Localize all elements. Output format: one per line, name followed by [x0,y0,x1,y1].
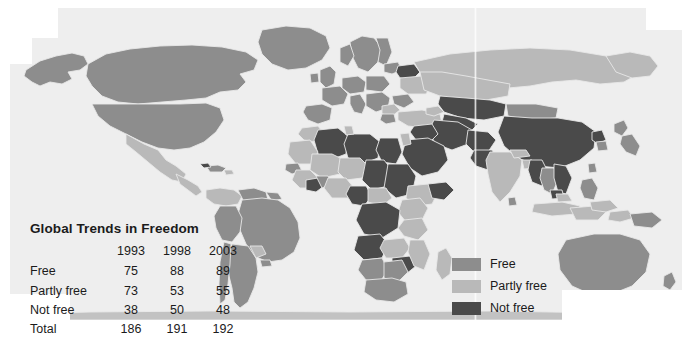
legend-swatch-partly-free [452,280,481,293]
column-header-1993: 1993 [108,242,154,262]
cell-free-1993: 75 [108,262,154,281]
column-header-2003: 2003 [200,242,246,262]
row-label-total: Total [30,320,108,339]
legend-item-free: Free [452,254,547,274]
table-row: Free 75 88 89 [30,262,246,281]
cell-free-1998: 88 [154,262,200,281]
column-header-1998: 1998 [154,242,200,262]
legend-label-not-free: Not free [490,301,534,315]
freedom-counts-table: 1993 1998 2003 Free 75 88 89 Partly free… [30,242,246,339]
cell-total-1993: 186 [108,320,154,339]
cell-not-free-1998: 50 [154,301,200,320]
row-label-not-free: Not free [30,301,108,320]
cell-partly-free-1998: 53 [154,282,200,301]
freedom-map-figure: .f { fill:#8d8d8d; stroke:#e8e8e8; strok… [0,0,690,340]
global-trends-table-block: Global Trends in Freedom 1993 1998 2003 … [30,221,246,339]
legend-label-free: Free [490,257,516,271]
legend-item-not-free: Not free [452,298,547,318]
table-header-row: 1993 1998 2003 [30,242,246,262]
cell-partly-free-1993: 73 [108,282,154,301]
cell-partly-free-2003: 55 [200,282,246,301]
legend-item-partly-free: Partly free [452,276,547,296]
table-row: Total 186 191 192 [30,320,246,339]
cell-not-free-1993: 38 [108,301,154,320]
row-label-free: Free [30,262,108,281]
table-row: Not free 38 50 48 [30,301,246,320]
cell-free-2003: 89 [200,262,246,281]
cell-not-free-2003: 48 [200,301,246,320]
legend-swatch-free [452,258,481,271]
table-title: Global Trends in Freedom [30,221,246,236]
table-row: Partly free 73 53 55 [30,282,246,301]
cell-total-2003: 192 [200,320,246,339]
map-legend: Free Partly free Not free [452,254,547,320]
legend-swatch-not-free [452,302,481,315]
table-corner-cell [30,242,108,262]
cell-total-1998: 191 [154,320,200,339]
row-label-partly-free: Partly free [30,282,108,301]
legend-label-partly-free: Partly free [490,279,547,293]
